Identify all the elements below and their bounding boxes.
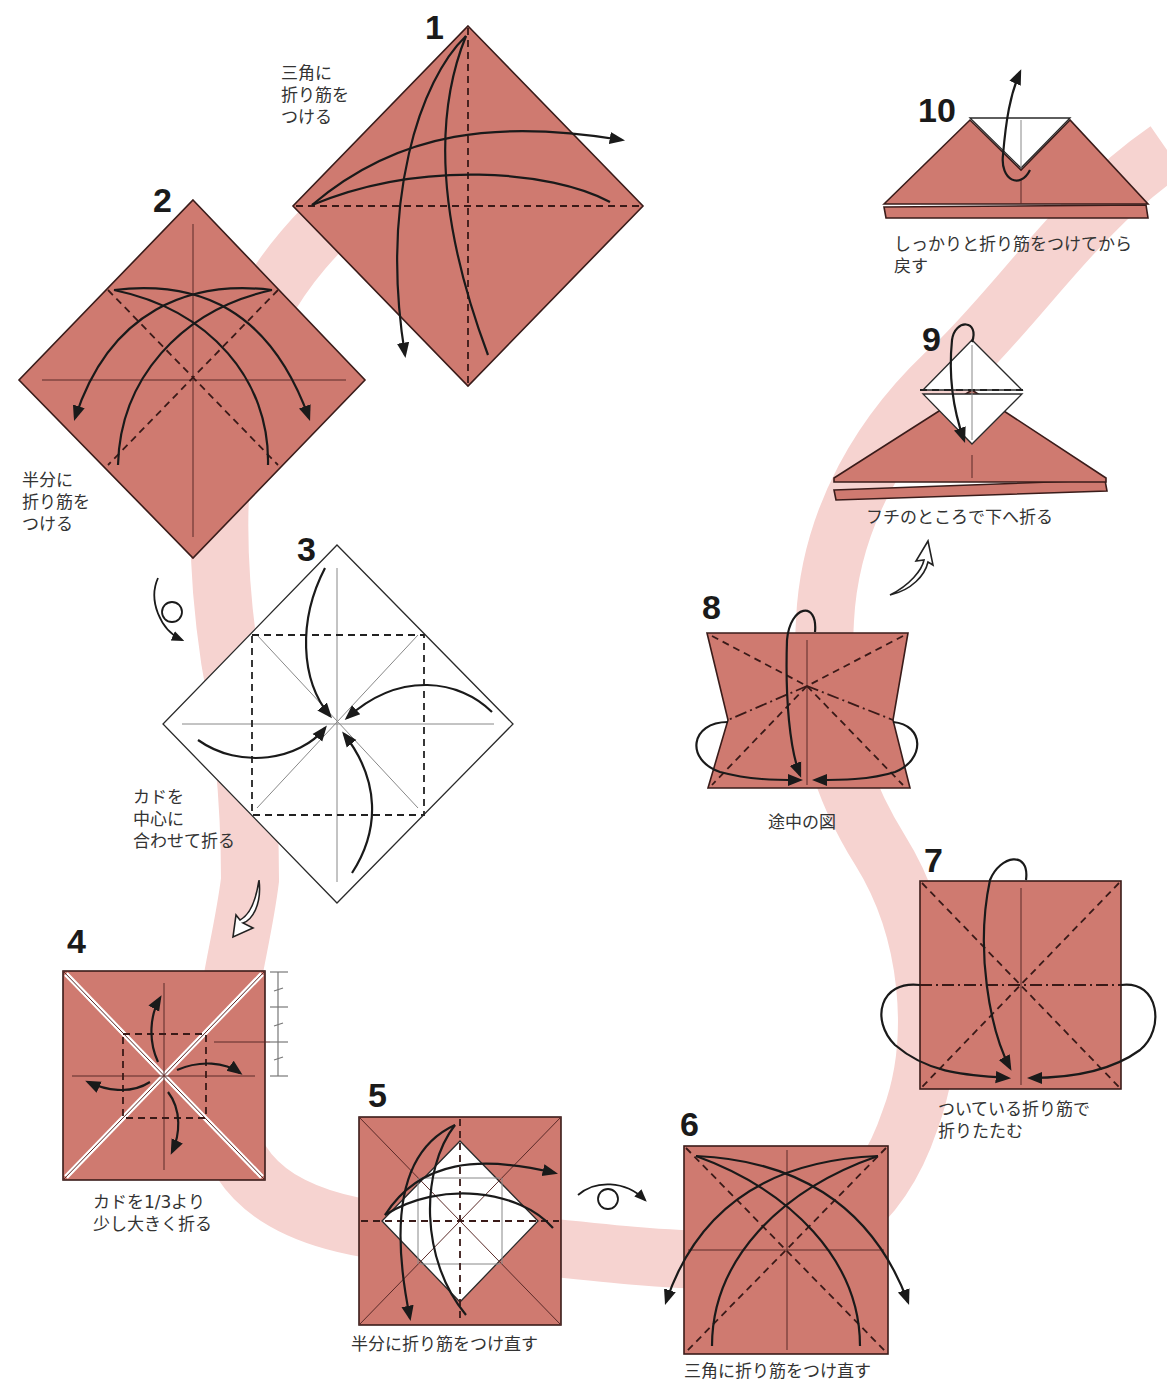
step-4-caption: カドを1/3より 少し大きく折る — [93, 1191, 212, 1235]
step-2-number: 2 — [153, 183, 172, 217]
step-3-number: 3 — [297, 532, 316, 566]
thirds-ruler — [270, 972, 288, 1076]
step-5-caption: 半分に折り筋をつけ直す — [351, 1333, 538, 1355]
step-4-number: 4 — [67, 924, 86, 958]
step-7-diagram — [881, 859, 1155, 1089]
step-5-number: 5 — [368, 1078, 387, 1112]
step-1-caption: 三角に 折り筋を つける — [281, 62, 349, 128]
step-10-caption: しっかりと折り筋をつけてから 戻す — [894, 233, 1132, 277]
step-5-diagram — [359, 1117, 561, 1325]
origami-diagram: 1 2 3 4 5 6 7 8 9 10 三角に 折り筋を つける 半分に 折り… — [0, 0, 1167, 1386]
next-step-arrow-icon — [890, 541, 933, 595]
turn-over-icon — [578, 1184, 645, 1209]
step-8-number: 8 — [702, 590, 721, 624]
step-2-caption: 半分に 折り筋を つける — [22, 469, 90, 535]
step-4-diagram — [63, 971, 270, 1180]
step-10-number: 10 — [918, 93, 956, 127]
step-6-number: 6 — [680, 1107, 699, 1141]
step-8-caption: 途中の図 — [768, 811, 836, 833]
step-7-caption: ついている折り筋で 折りたたむ — [938, 1098, 1090, 1142]
step-8-diagram — [696, 611, 917, 788]
step-3-caption: カドを 中心に 合わせて折る — [133, 786, 235, 852]
turn-over-icon — [154, 578, 182, 640]
step-1-number: 1 — [425, 10, 444, 44]
step-9-caption: フチのところで下へ折る — [866, 506, 1053, 528]
step-7-number: 7 — [924, 843, 943, 877]
step-9-number: 9 — [922, 322, 941, 356]
step-6-diagram — [666, 1146, 908, 1354]
step-6-caption: 三角に折り筋をつけ直す — [684, 1360, 871, 1382]
